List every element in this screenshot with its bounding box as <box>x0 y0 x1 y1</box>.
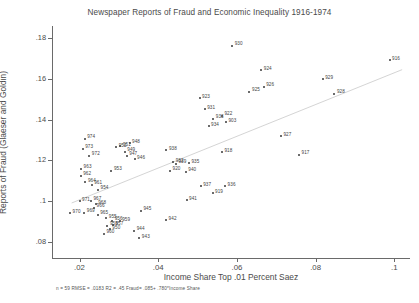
y-tick-label: .14 <box>36 115 46 124</box>
scatter-point-marker <box>80 168 82 170</box>
scatter-point-label: 917 <box>302 150 310 155</box>
scatter-point-marker <box>186 199 188 201</box>
y-tick-mark <box>48 79 52 80</box>
x-tick-label: .02 <box>74 263 85 272</box>
scatter-point-label: 931 <box>207 105 215 110</box>
scatter-point-label: 972 <box>92 151 100 156</box>
y-tick-mark <box>48 38 52 39</box>
scatter-point-marker <box>389 59 391 61</box>
scatter-point-label: 916 <box>392 56 400 61</box>
scatter-point-label: 974 <box>87 134 95 139</box>
scatter-point-label: 965 <box>100 210 108 215</box>
x-tick-mark <box>394 258 395 262</box>
scatter-point-marker <box>212 192 214 194</box>
scatter-point-marker <box>90 200 92 202</box>
scatter-point-marker <box>91 184 93 186</box>
scatter-point-label: 948 <box>132 139 140 144</box>
scatter-point-label: 942 <box>169 216 177 221</box>
chart-figure: Newspaper Reports of Fraud and Economic … <box>0 0 419 303</box>
scatter-point-label: 960 <box>106 229 114 234</box>
scatter-point-label: 926 <box>266 82 274 87</box>
scatter-point-label: 932 <box>176 158 184 163</box>
scatter-point-label: 918 <box>224 148 232 153</box>
scatter-point-marker <box>129 142 131 144</box>
scatter-point-label: 934 <box>211 122 219 127</box>
x-tick-label: .06 <box>231 263 242 272</box>
scatter-point-label: 945 <box>143 206 151 211</box>
x-tick-mark <box>80 258 81 262</box>
scatter-point-label: 953 <box>114 166 122 171</box>
x-tick-label: .1 <box>391 263 398 272</box>
x-tick-mark <box>316 258 317 262</box>
scatter-point-label: 970 <box>73 209 81 214</box>
scatter-point-label: 969 <box>87 208 95 213</box>
scatter-point-label: 933 <box>216 114 224 119</box>
scatter-point-marker <box>84 138 86 140</box>
x-tick-mark <box>158 258 159 262</box>
regression-annotation: n = 59 RMSE = .0183 R2 = .45 Fraud= .085… <box>56 286 200 291</box>
scatter-point-marker <box>263 86 265 88</box>
scatter-point-marker <box>80 175 82 177</box>
scatter-point-label: 966 <box>97 203 105 208</box>
scatter-point-label: 903 <box>228 118 236 123</box>
scatter-point-label: 930 <box>235 41 243 46</box>
scatter-point-label: 936 <box>228 182 236 187</box>
y-tick-label: .08 <box>36 237 46 246</box>
scatter-point-label: 962 <box>83 171 91 176</box>
chart-title: Newspaper Reports of Fraud and Economic … <box>0 8 419 17</box>
scatter-point-marker <box>225 121 227 123</box>
scatter-point-label: 922 <box>224 111 232 116</box>
scatter-point-label: 973 <box>85 144 93 149</box>
scatter-point-label: 952 <box>119 143 127 148</box>
scatter-point-label: 935 <box>191 159 199 164</box>
scatter-point-marker <box>97 189 99 191</box>
scatter-point-label: 923 <box>202 94 210 99</box>
scatter-point-label: 963 <box>84 164 92 169</box>
scatter-point-label: 928 <box>337 89 345 94</box>
scatter-point-marker <box>97 214 99 216</box>
scatter-point-marker <box>103 233 105 235</box>
y-axis-label: Reports of Fraud (Glaeser and Goldin) <box>0 26 12 259</box>
y-tick-label: .16 <box>36 74 46 83</box>
scatter-point-label: 937 <box>203 182 211 187</box>
scatter-point-label: 949 <box>127 147 135 152</box>
scatter-point-marker <box>199 97 201 99</box>
scatter-point-label: 924 <box>264 66 272 71</box>
scatter-point-marker <box>124 151 126 153</box>
scatter-point-marker <box>126 155 128 157</box>
scatter-point-marker <box>175 163 177 165</box>
scatter-point-label: 946 <box>137 155 145 160</box>
scatter-point-label: 944 <box>137 226 145 231</box>
y-tick-mark <box>48 201 52 202</box>
scatter-point-marker <box>133 230 135 232</box>
scatter-point-label: 919 <box>215 189 223 194</box>
x-axis-label: Income Share Top .01 Percent Saez <box>52 272 410 282</box>
scatter-point-label: 925 <box>252 87 260 92</box>
y-tick-label: .18 <box>36 33 46 42</box>
y-tick-mark <box>48 160 52 161</box>
scatter-point-marker <box>204 108 206 110</box>
x-axis-line <box>52 258 410 259</box>
scatter-point-marker <box>185 171 187 173</box>
scatter-point-label: 971 <box>82 197 90 202</box>
scatter-point-marker <box>208 125 210 127</box>
y-tick-mark <box>48 120 52 121</box>
x-tick-mark <box>237 258 238 262</box>
x-tick-label: .04 <box>153 263 164 272</box>
scatter-point-label: 941 <box>189 196 197 201</box>
scatter-point-marker <box>298 154 300 156</box>
scatter-point-label: 920 <box>173 166 181 171</box>
scatter-point-marker <box>140 210 142 212</box>
y-tick-label: .1 <box>40 196 46 205</box>
y-tick-label: .12 <box>36 155 46 164</box>
scatter-point-label: 938 <box>169 146 177 151</box>
plot-area: 9749739729639629649619549719679689669709… <box>52 26 410 258</box>
regression-fit-line <box>52 26 410 258</box>
scatter-point-label: 940 <box>188 167 196 172</box>
scatter-point-marker <box>79 200 81 202</box>
scatter-point-marker <box>82 148 84 150</box>
scatter-point-marker <box>169 170 171 172</box>
y-tick-mark <box>48 242 52 243</box>
scatter-point-label: 954 <box>101 185 109 190</box>
scatter-point-label: 927 <box>283 132 291 137</box>
